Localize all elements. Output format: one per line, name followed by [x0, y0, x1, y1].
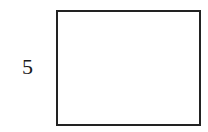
left-side-length-label: 5 [22, 55, 33, 79]
rectangle-shape [56, 10, 201, 126]
